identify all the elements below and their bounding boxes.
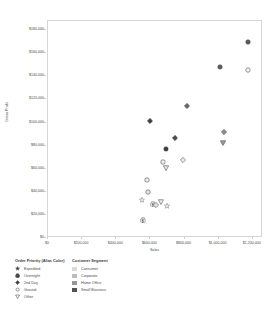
y-axis-tick-label: $40,000 [31,189,44,193]
x-axis-tick-mark [252,237,253,239]
shape-legend-item-label: Other [24,295,33,299]
x-axis-title: Sales [47,248,262,252]
color-legend-item-label: Small Business [81,288,106,292]
color-legend-item-home-office[interactable]: Home Office [72,280,108,287]
data-point[interactable] [183,95,190,102]
shape-legend-item-ground[interactable]: Ground [15,287,65,294]
y-axis-tick-label: $100,000 [29,120,44,124]
color-legend: Customer Segment ConsumerCorporateHome O… [72,258,108,294]
swatch-fill [72,274,77,279]
scatter-plot-chart: $0$20,000$40,000$60,000$80,000$100,000$1… [0,0,269,325]
x-axis-tick-label: $800,000 [176,241,191,245]
color-legend-item-label: Home Office [81,281,101,285]
shape-legend: Order Priority (Alias Color) Expedited O… [15,258,65,301]
x-axis-tick-label: $0 [45,241,49,245]
y-axis-tick-label: $20,000 [31,212,44,216]
data-point[interactable] [144,169,151,176]
triangle-down-marker [15,294,24,299]
y-axis-tick-label: $160,000 [29,50,44,54]
color-swatch [72,281,81,286]
x-axis-tick-mark [184,237,185,239]
swatch-fill [72,281,77,286]
y-axis-tick-mark [44,75,46,76]
data-point[interactable] [220,132,227,139]
x-axis-tick-mark [81,237,82,239]
x-axis-tick-mark [115,237,116,239]
x-axis-tick-mark [47,237,48,239]
color-legend-title: Customer Segment [72,258,108,263]
shape-legend-item-2nd-day[interactable]: 2nd Day [15,280,65,287]
y-axis-tick-label: $80,000 [31,143,44,147]
color-swatch [72,288,81,293]
color-legend-item-consumer[interactable]: Consumer [72,266,108,273]
y-axis-tick-label: $60,000 [31,166,44,170]
color-legend-item-label: Corporate [81,274,97,278]
color-legend-item-label: Consumer [81,267,98,271]
y-axis-tick-label: $120,000 [29,96,44,100]
club-marker [15,273,24,278]
color-legend-item-small-business[interactable]: Small Business [72,287,108,294]
y-axis-tick-label: $180,000 [29,27,44,31]
data-point[interactable] [145,182,152,189]
data-point[interactable] [162,138,169,145]
x-axis-tick-label: $600,000 [142,241,157,245]
data-point[interactable] [163,157,170,164]
circle-marker [15,287,24,292]
plot-area [47,20,262,237]
x-axis-tick-mark [149,237,150,239]
shape-legend-item-label: Ground [24,288,36,292]
data-point[interactable] [244,59,251,66]
x-axis-tick-label: $1,000,000 [209,241,227,245]
shape-legend-item-expedited[interactable]: Expedited [15,266,65,273]
y-axis-tick-mark [44,145,46,146]
y-axis-tick-mark [44,214,46,215]
swatch-fill [72,288,77,293]
data-point[interactable] [221,122,228,129]
data-point[interactable] [180,149,187,156]
swatch-fill [72,267,77,272]
data-point[interactable] [138,190,145,197]
x-axis-tick-label: $400,000 [108,241,123,245]
shape-legend-title: Order Priority (Alias Color) [15,258,65,263]
shape-legend-item-overnight[interactable]: Overnight [15,273,65,280]
shape-legend-item-other[interactable]: Other [15,294,65,301]
x-axis-tick-label: $200,000 [74,241,89,245]
color-swatch [72,267,81,272]
y-axis-tick-mark [44,237,46,238]
data-point[interactable] [153,194,160,201]
data-point[interactable] [245,32,252,39]
shape-legend-item-label: 2nd Day [24,281,38,285]
data-point[interactable] [164,196,171,203]
y-axis-title: Gross Profit [5,92,9,132]
y-axis-tick-label: $140,000 [29,73,44,77]
star-marker [15,266,24,271]
shape-legend-item-label: Expedited [24,267,40,271]
x-axis-tick-mark [218,237,219,239]
color-swatch [72,274,81,279]
y-axis-tick-mark [44,98,46,99]
color-legend-item-corporate[interactable]: Corporate [72,273,108,280]
y-axis-tick-mark [44,122,46,123]
x-axis-tick-label: $1,200,000 [243,241,261,245]
data-point[interactable] [171,127,178,134]
y-axis-tick-mark [44,52,46,53]
y-axis-tick-mark [44,168,46,169]
y-axis-tick-mark [44,191,46,192]
diamond-marker [15,280,24,285]
data-point[interactable] [217,56,224,63]
data-point[interactable] [146,110,153,117]
shape-legend-item-label: Overnight [24,274,40,278]
y-axis-tick-mark [44,29,46,30]
data-point[interactable] [140,209,147,216]
